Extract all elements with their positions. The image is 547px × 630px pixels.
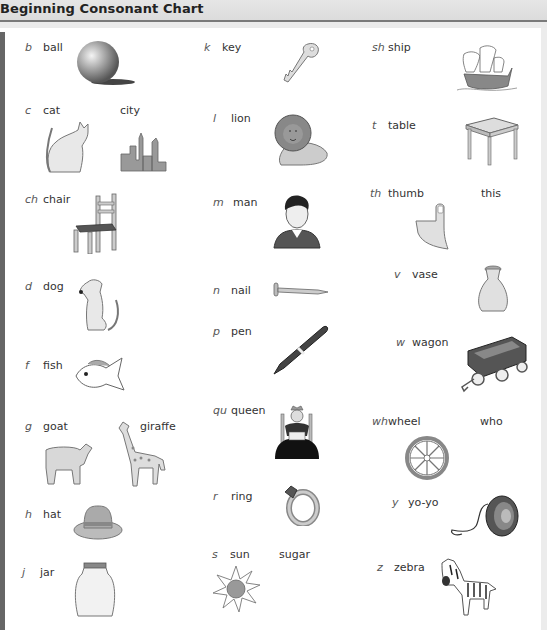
entry-word: dog	[43, 280, 64, 293]
entry-extra-word: city	[120, 104, 140, 117]
entry-letter: f	[25, 359, 29, 372]
entry-extra-word: sugar	[279, 548, 310, 561]
queen-icon	[273, 404, 319, 460]
zebra-icon	[438, 555, 500, 621]
nail-icon	[272, 282, 330, 298]
entry-word: ball	[43, 41, 63, 54]
entry-letter: qu	[213, 404, 227, 417]
entry-word: man	[233, 196, 257, 209]
entry-letter: sh	[372, 41, 385, 54]
dog-icon	[78, 278, 124, 334]
entry-letter: v	[394, 268, 401, 281]
goat-icon	[42, 440, 94, 486]
entry-word: zebra	[394, 561, 425, 574]
entry-letter: th	[370, 187, 381, 200]
entry-letter: y	[392, 496, 399, 509]
entry-letter: b	[25, 41, 32, 54]
wagon-icon	[460, 335, 530, 395]
entry-extra-word: who	[480, 415, 503, 428]
sun-icon	[211, 565, 261, 613]
jar-icon	[72, 562, 120, 620]
entry-word: wagon	[412, 336, 448, 349]
entry-word: ship	[388, 41, 411, 54]
entry-word: table	[388, 119, 416, 132]
entry-word: nail	[231, 284, 251, 297]
entry-letter: k	[204, 41, 210, 54]
table-icon	[464, 117, 520, 167]
right-border	[541, 28, 547, 630]
pen-icon	[272, 322, 330, 376]
entry-word: jar	[40, 566, 54, 579]
entry-word: queen	[231, 404, 265, 417]
entry-word: hat	[43, 508, 61, 521]
lion-icon	[273, 113, 331, 169]
entry-letter: n	[213, 284, 220, 297]
entry-extra-word: this	[481, 187, 501, 200]
entry-letter: j	[22, 566, 25, 579]
entry-letter: h	[25, 508, 32, 521]
ship-icon	[456, 42, 518, 96]
entry-word: wheel	[388, 415, 421, 428]
fish-icon	[74, 356, 130, 400]
entry-letter: l	[213, 112, 216, 125]
man-icon	[272, 192, 322, 250]
entry-word: fish	[43, 359, 63, 372]
wheel-icon	[405, 436, 449, 480]
ball-icon	[75, 40, 137, 88]
entry-word: lion	[231, 112, 251, 125]
entry-letter: d	[25, 280, 32, 293]
entry-word: pen	[231, 325, 252, 338]
entry-word: yo-yo	[408, 496, 438, 509]
entry-letter: m	[213, 196, 224, 209]
entry-letter: r	[213, 490, 218, 503]
vase-icon	[476, 265, 510, 315]
city-icon	[120, 132, 174, 172]
entry-word: cat	[43, 104, 60, 117]
chair-icon	[72, 192, 118, 254]
entry-word: vase	[412, 268, 438, 281]
key-icon	[282, 42, 322, 86]
giraffe-icon	[115, 420, 171, 488]
entry-letter: t	[372, 119, 376, 132]
entry-word: sun	[230, 548, 250, 561]
entry-letter: p	[213, 325, 220, 338]
entry-letter: w	[396, 336, 405, 349]
entry-letter: c	[25, 104, 31, 117]
entry-letter: z	[377, 561, 383, 574]
entry-letter: ch	[25, 193, 38, 206]
entry-word: key	[222, 41, 241, 54]
entry-letter: s	[212, 548, 218, 561]
page-title: Beginning Consonant Chart	[0, 1, 204, 16]
entry-word: goat	[43, 420, 68, 433]
thumb-icon	[414, 203, 452, 251]
entry-letter: wh	[372, 415, 388, 428]
ring-icon	[281, 484, 321, 526]
entry-word: ring	[231, 490, 253, 503]
cat-icon	[42, 120, 92, 174]
entry-word: chair	[43, 193, 70, 206]
hat-icon	[72, 500, 124, 542]
entry-letter: g	[25, 420, 32, 433]
chart-header: Beginning Consonant Chart	[0, 0, 547, 20]
left-border	[0, 32, 5, 630]
yoyo-icon	[448, 490, 522, 540]
entry-word: thumb	[388, 187, 424, 200]
